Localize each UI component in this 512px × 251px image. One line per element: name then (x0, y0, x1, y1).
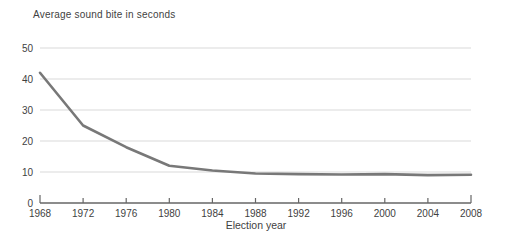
x-tick-label-1980: 1980 (158, 208, 181, 219)
x-tick-label-2008: 2008 (460, 208, 483, 219)
x-tick-label-1988: 1988 (244, 208, 267, 219)
x-tick-label-1992: 1992 (287, 208, 310, 219)
y-tick-label-10: 10 (22, 167, 34, 178)
x-tick-label-1972: 1972 (72, 208, 95, 219)
y-tick-label-30: 30 (22, 105, 34, 116)
sound-bite-line-chart: Average sound bite in seconds 0102030405… (0, 0, 512, 251)
x-tick-label-1996: 1996 (331, 208, 354, 219)
x-tick-label-1984: 1984 (201, 208, 224, 219)
y-tick-label-40: 40 (22, 74, 34, 85)
x-axis-label: Election year (0, 219, 512, 231)
y-tick-label-0: 0 (27, 198, 33, 209)
x-tick-label-1976: 1976 (115, 208, 138, 219)
y-tick-label-50: 50 (22, 43, 34, 54)
y-tick-label-20: 20 (22, 136, 34, 147)
data-line-sound-bite (40, 73, 471, 175)
line-chart-canvas: 0102030405019681972197619801984198819921… (0, 0, 512, 251)
x-tick-label-2000: 2000 (374, 208, 397, 219)
x-tick-label-1968: 1968 (29, 208, 52, 219)
x-tick-label-2004: 2004 (417, 208, 440, 219)
